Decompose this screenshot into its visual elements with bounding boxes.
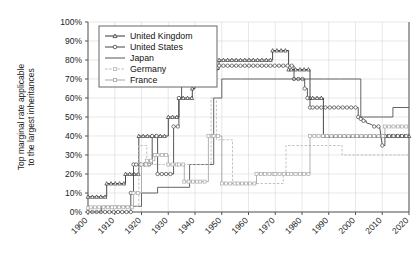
- series-marker: [217, 58, 221, 61]
- series-marker: [279, 49, 283, 52]
- series-marker: [307, 173, 310, 176]
- series-marker: [182, 163, 185, 166]
- series-marker: [130, 206, 133, 209]
- series-marker: [236, 182, 239, 185]
- series-marker: [229, 182, 232, 185]
- series-marker: [265, 64, 268, 67]
- series-marker: [146, 134, 150, 137]
- series-marker: [284, 49, 288, 52]
- series-marker: [368, 135, 371, 138]
- series-marker: [274, 173, 277, 176]
- series-marker: [203, 180, 206, 183]
- series-marker: [144, 163, 147, 166]
- series-marker: [275, 49, 279, 52]
- series-marker: [222, 58, 226, 61]
- series-marker: [160, 154, 163, 157]
- y-axis-title-line: to the largest inheritances: [26, 68, 36, 165]
- series-marker: [320, 106, 323, 109]
- legend-label[interactable]: Japan: [130, 53, 154, 63]
- series-marker: [112, 210, 115, 213]
- series-marker: [381, 135, 384, 138]
- series-marker: [345, 106, 348, 109]
- series-marker: [177, 96, 180, 99]
- series-marker: [109, 182, 113, 185]
- series-marker: [311, 106, 314, 109]
- y-axis-tick-label: 90%: [65, 36, 82, 46]
- y-axis-tick-label: 30%: [65, 150, 82, 160]
- series-marker: [317, 135, 320, 138]
- y-axis-title: Top marginal rate applicableto the large…: [16, 64, 36, 171]
- y-axis-tick-label: 20%: [65, 169, 82, 179]
- series-marker: [141, 134, 145, 137]
- series-marker: [125, 210, 128, 213]
- series-marker: [264, 58, 268, 61]
- y-axis-tick-label: 80%: [65, 55, 82, 65]
- series-marker: [234, 58, 238, 61]
- series-marker: [256, 58, 260, 61]
- series-marker: [341, 106, 344, 109]
- series-marker: [330, 135, 333, 138]
- series-marker: [118, 182, 122, 185]
- series-marker: [243, 58, 247, 61]
- series-marker: [86, 195, 90, 198]
- series-marker: [343, 135, 346, 138]
- series-marker: [176, 125, 179, 128]
- series-marker: [129, 210, 132, 213]
- series-marker: [405, 134, 408, 137]
- legend-label[interactable]: United States: [130, 42, 183, 52]
- series-france: [87, 125, 410, 210]
- series-marker: [253, 182, 256, 185]
- series-marker: [373, 135, 376, 138]
- series-marker: [373, 125, 376, 128]
- series-marker: [306, 96, 309, 99]
- x-axis-tick-label: 1930: [149, 215, 170, 236]
- series-marker: [89, 206, 92, 209]
- legend-label[interactable]: Germany: [130, 64, 167, 74]
- series-marker: [166, 115, 170, 118]
- y-axis-tick-label: 0%: [70, 207, 83, 217]
- inheritance-tax-line-chart: 0%10%20%30%40%50%60%70%80%90%100%1900191…: [0, 0, 419, 259]
- series-marker: [243, 64, 246, 67]
- series-marker: [155, 134, 158, 137]
- series-marker: [121, 210, 124, 213]
- series-marker: [116, 210, 119, 213]
- series-marker: [351, 135, 354, 138]
- legend-swatch-marker: [113, 78, 116, 81]
- y-axis-tick-label: 40%: [65, 131, 82, 141]
- series-marker: [239, 58, 243, 61]
- series-marker: [290, 64, 293, 67]
- series-marker: [320, 96, 324, 99]
- legend-label[interactable]: France: [130, 75, 157, 85]
- series-marker: [150, 159, 153, 162]
- series-marker: [324, 106, 327, 109]
- x-axis-tick-label: 1920: [122, 215, 143, 236]
- series-marker: [311, 96, 315, 99]
- series-marker: [165, 154, 168, 157]
- series-marker: [278, 173, 281, 176]
- series-marker: [256, 64, 259, 67]
- series-marker: [118, 206, 121, 209]
- series-marker: [277, 64, 280, 67]
- series-marker: [230, 58, 234, 61]
- series-marker: [313, 135, 316, 138]
- series-marker: [377, 135, 380, 138]
- series-marker: [302, 68, 306, 71]
- x-axis-tick-label: 1910: [96, 215, 117, 236]
- series-marker: [187, 180, 190, 183]
- series-marker: [334, 135, 337, 138]
- series-marker: [235, 64, 238, 67]
- series-marker: [252, 58, 256, 61]
- series-marker: [169, 172, 172, 175]
- series-marker: [321, 135, 324, 138]
- legend-label[interactable]: United Kingdom: [130, 31, 193, 41]
- series-marker: [247, 58, 251, 61]
- series-marker: [145, 159, 148, 162]
- series-marker: [260, 58, 264, 61]
- x-axis-tick-label: 1900: [69, 215, 90, 236]
- y-axis-tick-label: 10%: [65, 188, 82, 198]
- series-marker: [220, 182, 223, 185]
- x-axis-tick-label: 2000: [336, 215, 357, 236]
- series-marker: [286, 64, 289, 67]
- legend-swatch-marker: [113, 45, 117, 49]
- series-marker: [156, 172, 159, 175]
